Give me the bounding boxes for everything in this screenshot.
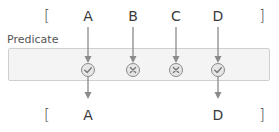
input-arrows: [85, 27, 222, 63]
output-close-bracket: ]: [259, 108, 265, 123]
check-circle-icon: [212, 64, 225, 77]
x-circle-icon: [127, 64, 140, 77]
output-item-d: D: [213, 108, 224, 122]
output-open-bracket: [: [44, 108, 50, 123]
output-arrows: [85, 77, 222, 99]
output-item-a: A: [83, 108, 93, 122]
check-circle-icon: [82, 64, 95, 77]
x-circle-icon: [170, 64, 183, 77]
arrows-and-icons: [0, 0, 279, 132]
